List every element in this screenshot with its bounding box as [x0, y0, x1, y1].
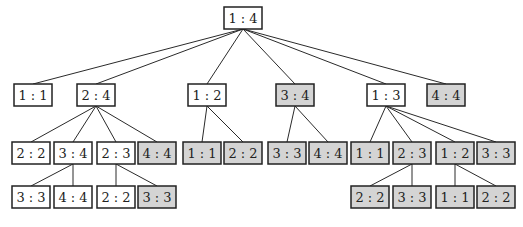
- node-label: 4 : 4: [431, 88, 460, 103]
- node-label: 2 : 4: [81, 88, 110, 103]
- tree-edge: [243, 29, 386, 84]
- tree-edge: [370, 106, 386, 142]
- tree-node: 4 : 4: [427, 84, 465, 106]
- tree-node: 3 : 3: [12, 186, 50, 208]
- tree-node: 3 : 4: [276, 84, 314, 106]
- tree-node: 1 : 2: [188, 84, 226, 106]
- node-label: 3 : 3: [272, 146, 301, 161]
- tree-node: 4 : 4: [54, 186, 92, 208]
- node-label: 3 : 3: [16, 190, 45, 205]
- node-label: 1 : 3: [371, 88, 400, 103]
- tree-edge: [31, 164, 73, 186]
- node-label: 1 : 1: [440, 190, 469, 205]
- node-label: 1 : 2: [440, 146, 469, 161]
- tree-node: 2 : 2: [224, 142, 262, 164]
- node-label: 3 : 3: [142, 190, 171, 205]
- tree-diagram: 1 : 41 : 12 : 41 : 23 : 41 : 34 : 42 : 2…: [0, 0, 523, 227]
- tree-edge: [73, 106, 96, 142]
- tree-edge: [386, 106, 412, 142]
- node-label: 4 : 4: [58, 190, 87, 205]
- tree-node: 2 : 2: [477, 186, 515, 208]
- node-label: 2 : 2: [355, 190, 384, 205]
- tree-edge: [295, 106, 328, 142]
- tree-node: 3 : 3: [138, 186, 176, 208]
- tree-edge: [386, 106, 496, 142]
- tree-edge: [96, 29, 243, 84]
- node-label: 3 : 3: [397, 190, 426, 205]
- tree-node: 2 : 2: [12, 142, 50, 164]
- tree-node: 4 : 4: [138, 142, 176, 164]
- tree-node: 2 : 2: [97, 186, 135, 208]
- node-label: 2 : 2: [101, 190, 130, 205]
- node-label: 2 : 3: [101, 146, 130, 161]
- tree-node: 1 : 3: [367, 84, 405, 106]
- tree-edge: [96, 106, 157, 142]
- tree-node: 1 : 4: [224, 7, 262, 29]
- node-label: 1 : 1: [18, 88, 47, 103]
- tree-node: 3 : 3: [477, 142, 515, 164]
- tree-node: 4 : 4: [309, 142, 347, 164]
- tree-edge: [370, 164, 412, 186]
- tree-edge: [116, 164, 157, 186]
- tree-node: 3 : 3: [393, 186, 431, 208]
- tree-node: 2 : 4: [77, 84, 115, 106]
- node-label: 2 : 3: [397, 146, 426, 161]
- tree-edge: [455, 164, 496, 186]
- node-label: 3 : 4: [280, 88, 309, 103]
- tree-edge: [386, 106, 455, 142]
- tree-node: 3 : 4: [54, 142, 92, 164]
- tree-node: 3 : 3: [268, 142, 306, 164]
- node-label: 2 : 2: [228, 146, 257, 161]
- node-label: 4 : 4: [313, 146, 342, 161]
- tree-edge: [207, 106, 243, 142]
- node-label: 2 : 2: [481, 190, 510, 205]
- node-label: 1 : 1: [187, 146, 216, 161]
- node-label: 3 : 4: [58, 146, 87, 161]
- tree-edge: [31, 106, 96, 142]
- tree-node: 1 : 1: [183, 142, 221, 164]
- node-label: 1 : 2: [192, 88, 221, 103]
- tree-node: 1 : 1: [351, 142, 389, 164]
- tree-node: 2 : 3: [393, 142, 431, 164]
- node-label: 4 : 4: [142, 146, 171, 161]
- node-label: 2 : 2: [16, 146, 45, 161]
- tree-node: 2 : 2: [351, 186, 389, 208]
- tree-node: 1 : 1: [436, 186, 474, 208]
- node-label: 1 : 1: [355, 146, 384, 161]
- tree-edge: [202, 106, 207, 142]
- tree-edge: [33, 29, 243, 84]
- tree-node: 1 : 1: [14, 84, 52, 106]
- tree-edge: [243, 29, 295, 84]
- tree-edge: [287, 106, 295, 142]
- node-label: 3 : 3: [481, 146, 510, 161]
- tree-edge: [243, 29, 446, 84]
- tree-node: 2 : 3: [97, 142, 135, 164]
- node-label: 1 : 4: [228, 11, 257, 26]
- tree-node: 1 : 2: [436, 142, 474, 164]
